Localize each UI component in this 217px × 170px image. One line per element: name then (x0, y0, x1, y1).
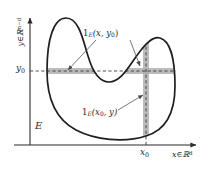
x-axis-label-text: x∈ℝ (172, 150, 189, 159)
vertical-slice-annotation: 1E(x0, y) (82, 108, 117, 117)
slice-arguments: (x, y (93, 28, 111, 38)
slice-diagram-figure: y∈ℝn−d x∈ℝd y0 x0 E 1E(x, y0) 1E(x0, y) (0, 0, 217, 170)
y-axis-label-exponent: n−d (16, 18, 22, 30)
diagram-canvas (0, 0, 217, 170)
x-axis-label-exponent: d (189, 150, 192, 156)
y-axis-label: y∈ℝn−d (17, 2, 25, 62)
y-axis-label-text: y∈ℝ (16, 29, 25, 46)
slice-arguments: (x (92, 107, 100, 117)
leader-line-vertical-slice (118, 95, 143, 110)
horizontal-slice-annotation: 1E(x, y0) (83, 29, 118, 38)
x-axis-label: x∈ℝd (172, 151, 193, 159)
slice-argument-close: ) (115, 28, 118, 38)
slice-argument-close: , y) (104, 107, 118, 117)
y0-tick-label: y0 (16, 64, 25, 74)
region-label-E-text: E (35, 120, 42, 131)
region-label-E: E (35, 121, 42, 131)
x0-subscript: 0 (145, 151, 149, 158)
x0-tick-label: x0 (140, 148, 149, 158)
y0-subscript: 0 (21, 67, 25, 74)
